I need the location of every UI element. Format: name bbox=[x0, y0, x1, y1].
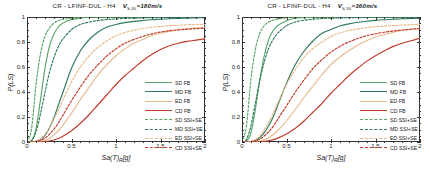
legend-line-swatch bbox=[360, 119, 387, 120]
legend-item[interactable]: MD SSI+SE bbox=[360, 124, 430, 133]
legend-line-swatch bbox=[360, 101, 387, 102]
y-axis-title-left: P(LS) bbox=[7, 63, 14, 103]
axis-tick-minor bbox=[384, 17, 385, 19]
legend-item[interactable]: MD FB bbox=[360, 87, 430, 96]
axis-tick-minor bbox=[134, 17, 135, 19]
legend-line-swatch bbox=[145, 147, 172, 148]
legend-item[interactable]: SD FB bbox=[360, 78, 430, 87]
axis-tick-minor bbox=[242, 111, 244, 112]
axis-tick-minor bbox=[419, 73, 421, 74]
axis-tick-minor bbox=[36, 17, 37, 19]
panel-right: CR - LFINF-DUL - H4VS,30=360m/s 00.511.5… bbox=[215, 0, 430, 173]
panel-right-title: CR - LFINF-DUL - H4VS,30=360m/s bbox=[215, 2, 430, 11]
axis-tick-minor bbox=[242, 36, 244, 37]
axis-tick-minor bbox=[358, 17, 359, 19]
axis-tick-minor bbox=[27, 98, 29, 99]
axis-tick-minor bbox=[204, 36, 206, 37]
axis-tick-minor bbox=[27, 105, 29, 106]
axis-tick-minor bbox=[45, 17, 46, 19]
axis-tick-minor bbox=[63, 141, 64, 143]
axis-tick-minor bbox=[419, 36, 421, 37]
axis-tick-minor bbox=[419, 23, 421, 24]
y-tick-label: 0.8 bbox=[17, 39, 25, 45]
axis-tick-minor bbox=[242, 98, 244, 99]
axis-tick-minor bbox=[36, 141, 37, 143]
x-tick-label: 0.5 bbox=[282, 143, 290, 149]
axis-tick-minor bbox=[27, 123, 29, 124]
axis-tick-minor bbox=[242, 123, 244, 124]
axis-tick-major bbox=[116, 17, 117, 20]
legend-right: SD FBMD FBED FBCD FBSD SSI+SEMD SSI+SEED… bbox=[360, 78, 430, 152]
axis-tick-minor bbox=[27, 36, 29, 37]
axis-tick-minor bbox=[27, 55, 29, 56]
legend-line-swatch bbox=[360, 129, 387, 130]
axis-tick-minor bbox=[204, 73, 206, 74]
axis-tick-major bbox=[27, 117, 30, 118]
axis-tick-major bbox=[27, 42, 30, 43]
axis-tick-major bbox=[27, 17, 30, 18]
axis-tick-major bbox=[202, 17, 205, 18]
axis-tick-minor bbox=[143, 17, 144, 19]
axis-tick-minor bbox=[89, 17, 90, 19]
y-tick-label: 1 bbox=[22, 14, 25, 20]
legend-item[interactable]: CD SSI+SE bbox=[360, 143, 430, 152]
axis-tick-major bbox=[72, 17, 73, 20]
axis-tick-major bbox=[242, 17, 245, 18]
x-axis-title-left: Sa(T)R[g] bbox=[27, 154, 205, 163]
legend-label: SD SSI+SE bbox=[390, 117, 417, 123]
axis-tick-minor bbox=[204, 55, 206, 56]
legend-label: CD FB bbox=[175, 108, 191, 114]
axis-tick-major bbox=[202, 67, 205, 68]
legend-item[interactable]: ED SSI+SE bbox=[360, 134, 430, 143]
plot-area-left: 00.511.5200.20.40.60.81 SD FBMD FBED FBC… bbox=[27, 17, 205, 142]
x-tick-label: 1 bbox=[114, 143, 117, 149]
legend-line-swatch bbox=[145, 119, 172, 120]
axis-tick-major bbox=[417, 42, 420, 43]
axis-tick-minor bbox=[169, 17, 170, 19]
axis-tick-minor bbox=[187, 17, 188, 19]
axis-tick-major bbox=[242, 92, 245, 93]
x-tick-label: 1 bbox=[329, 143, 332, 149]
axis-tick-major bbox=[417, 17, 420, 18]
fragility-figure: CR - LFINF-DUL - H4VS,30=180m/s 00.511.5… bbox=[0, 0, 430, 173]
axis-tick-minor bbox=[349, 17, 350, 19]
axis-tick-major bbox=[242, 117, 245, 118]
axis-tick-minor bbox=[367, 17, 368, 19]
legend-label: ED SSI+SE bbox=[175, 135, 202, 141]
panel-right-vs30: VS,30=360m/s bbox=[338, 2, 378, 9]
legend-line-swatch bbox=[145, 138, 172, 139]
axis-tick-minor bbox=[152, 17, 153, 19]
axis-tick-minor bbox=[242, 48, 244, 49]
axis-tick-minor bbox=[27, 80, 29, 81]
axis-tick-minor bbox=[393, 17, 394, 19]
legend-line-swatch bbox=[360, 147, 387, 148]
axis-tick-minor bbox=[107, 17, 108, 19]
axis-tick-minor bbox=[107, 141, 108, 143]
axis-tick-major bbox=[376, 17, 377, 20]
axis-tick-minor bbox=[242, 61, 244, 62]
axis-tick-minor bbox=[80, 141, 81, 143]
y-tick-label: 0.4 bbox=[17, 89, 25, 95]
axis-tick-minor bbox=[27, 23, 29, 24]
axis-tick-minor bbox=[242, 55, 244, 56]
x-tick-label: 0.5 bbox=[67, 143, 75, 149]
y-axis-title-right: P(LS) bbox=[222, 63, 229, 103]
legend-item[interactable]: CD FB bbox=[360, 106, 430, 115]
axis-tick-major bbox=[27, 142, 30, 143]
legend-label: MD FB bbox=[390, 89, 406, 95]
axis-tick-major bbox=[27, 92, 30, 93]
axis-tick-minor bbox=[304, 17, 305, 19]
axis-tick-minor bbox=[419, 48, 421, 49]
y-tick-label: 0 bbox=[22, 139, 25, 145]
legend-item[interactable]: SD SSI+SE bbox=[360, 115, 430, 124]
y-tick-label: 0.4 bbox=[232, 89, 240, 95]
axis-tick-minor bbox=[45, 141, 46, 143]
axis-tick-major bbox=[242, 42, 245, 43]
axis-tick-minor bbox=[340, 141, 341, 143]
y-tick-label: 0.8 bbox=[232, 39, 240, 45]
axis-tick-minor bbox=[419, 30, 421, 31]
axis-tick-minor bbox=[178, 17, 179, 19]
axis-tick-minor bbox=[98, 141, 99, 143]
axis-tick-minor bbox=[242, 30, 244, 31]
legend-item[interactable]: ED FB bbox=[360, 97, 430, 106]
